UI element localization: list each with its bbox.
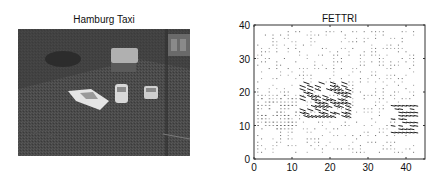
- plot-axes-box: [254, 25, 425, 159]
- y-tick-label: 40: [239, 20, 251, 31]
- x-tick-label: 30: [362, 162, 374, 173]
- y-tick-label: 20: [239, 87, 251, 98]
- x-tick-label: 40: [400, 162, 412, 173]
- vector-field: [257, 31, 418, 153]
- fettri-quiver-plot: 010203040010203040: [0, 0, 446, 184]
- x-tick-label: 0: [251, 162, 257, 173]
- y-tick-label: 30: [239, 54, 251, 65]
- x-tick-label: 20: [324, 162, 336, 173]
- axis-ticks: 010203040010203040: [239, 20, 425, 173]
- x-tick-label: 10: [286, 162, 298, 173]
- y-tick-label: 0: [244, 154, 250, 165]
- y-tick-label: 10: [239, 121, 251, 132]
